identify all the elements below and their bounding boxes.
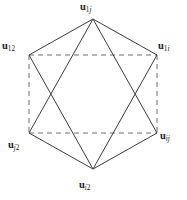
vertex-label-upper-right: u1i (158, 41, 169, 52)
vertex-label-bottom-sub: i2 (85, 184, 91, 192)
vertex-label-top: u1j (80, 2, 91, 13)
vertex-label-upper-left: u12 (2, 41, 15, 52)
vertex-label-upper-left-sub: 12 (8, 45, 15, 53)
solid-edges (29, 19, 157, 169)
edge-top-lowerright (93, 19, 157, 133)
figure-container: u1j u12 u1i uj2 uij ui2 (0, 0, 187, 200)
vertex-label-lower-right-sub: ij (166, 135, 170, 143)
dashed-edges (29, 55, 157, 133)
vertex-label-top-sub: 1j (86, 6, 92, 14)
edge-top-lowerleft (29, 19, 93, 133)
vertex-label-top-base: u (80, 1, 86, 12)
vertex-label-upper-right-sub: 1i (164, 45, 170, 53)
vertex-label-upper-right-base: u (158, 40, 164, 51)
vertex-label-lower-left-sub: j2 (14, 144, 20, 152)
vertex-label-bottom: ui2 (79, 180, 90, 191)
vertex-label-upper-left-base: u (2, 40, 8, 51)
edge-bottom-upperleft (29, 55, 93, 169)
graph-canvas (0, 0, 187, 200)
vertex-label-lower-left: uj2 (8, 140, 19, 151)
vertex-label-lower-right: uij (160, 131, 170, 142)
edge-bottom-upperright (93, 55, 157, 169)
